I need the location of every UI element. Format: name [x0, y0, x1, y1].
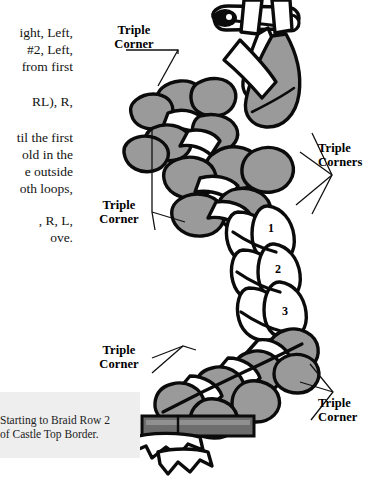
leader-triple-corner-bottom-left-b — [152, 346, 183, 358]
instruction-line: #2, Left, — [0, 41, 73, 58]
caption-line-1: Starting to Braid Row 2 — [0, 414, 110, 426]
instruction-block-a: ight, Left, #2, Left, from first — [0, 24, 73, 75]
callout-line-1: Triple — [102, 343, 135, 357]
instruction-line: e outside — [0, 163, 73, 180]
instruction-block-c: til the first old in the e outside oth l… — [0, 129, 73, 197]
callout-line-2: Corner — [88, 358, 150, 372]
callout-triple-corners-right: Triple Corners — [318, 142, 367, 169]
caption-line-2: of Castle Top Border. — [0, 427, 138, 441]
callout-triple-corner-bottom-left: Triple Corner — [88, 344, 150, 371]
instruction-line: , R, L, — [0, 212, 73, 229]
fringe-clip-icon — [130, 416, 254, 474]
instruction-line: ight, Left, — [0, 24, 73, 41]
instruction-line: from first — [0, 58, 73, 75]
braid-column — [226, 206, 306, 340]
instruction-block-d: , R, L, ove. — [0, 212, 73, 246]
instruction-line: old in the — [0, 146, 73, 163]
instruction-line: ove. — [0, 229, 73, 246]
callout-line-2: Corner — [88, 213, 150, 227]
callout-triple-corner-middle-left: Triple Corner — [88, 199, 150, 226]
strand-number: 2 — [275, 262, 281, 276]
strand-number: 3 — [282, 304, 288, 318]
instruction-line: RL), R, — [0, 93, 73, 110]
callout-line-2: Corners — [318, 156, 367, 170]
leader-triple-corners-right-arrowb — [296, 175, 332, 205]
figure-caption: Starting to Braid Row 2 of Castle Top Bo… — [0, 413, 138, 441]
callout-triple-corner-bottom-right: Triple Corner — [318, 397, 367, 424]
diagram-page: 1 2 3 — [0, 0, 367, 484]
instruction-line: til the first — [0, 129, 73, 146]
callout-line-2: Corner — [103, 38, 165, 52]
instruction-line: oth loops, — [0, 180, 73, 197]
callout-line-2: Corner — [318, 411, 367, 425]
callout-line-1: Triple — [318, 141, 351, 155]
instruction-block-b: RL), R, — [0, 93, 73, 110]
callout-line-1: Triple — [102, 198, 135, 212]
strand-number: 1 — [268, 221, 274, 235]
callout-line-1: Triple — [318, 396, 351, 410]
callout-line-1: Triple — [117, 23, 150, 37]
callout-triple-corner-top: Triple Corner — [103, 24, 165, 51]
